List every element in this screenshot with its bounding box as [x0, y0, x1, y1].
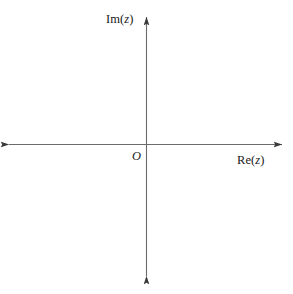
real-axis-label-prefix: Re( [237, 153, 255, 167]
imaginary-axis-label: Im(z) [106, 13, 134, 26]
imaginary-axis-label-prefix: Im( [106, 12, 124, 26]
real-axis-label: Re(z) [237, 154, 265, 167]
complex-plane-figure: Im(z) Re(z) O [0, 0, 293, 294]
axes-drawing [0, 0, 293, 294]
origin-label: O [132, 150, 141, 163]
imaginary-axis-label-suffix: ) [129, 12, 133, 26]
real-axis-label-suffix: ) [260, 153, 264, 167]
